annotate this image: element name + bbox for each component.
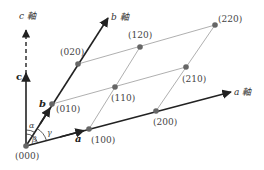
point-220 [212,22,218,28]
point-020 [75,61,81,67]
crystal-lattice-diagram: (000) (100) (200) (010) (110) (210) (020… [0,0,264,170]
point-110 [112,84,118,90]
b-axis-label: b 軸 [111,12,130,22]
gamma-arc [37,129,47,141]
b-vector-arrow [40,108,50,124]
label-220: (220) [218,14,242,24]
point-200 [153,108,159,114]
label-010: (010) [56,104,80,114]
point-120 [137,44,143,50]
b-vector-label: b [39,98,46,109]
a-axis-label: a 軸 [234,87,252,97]
alpha-arc [26,130,35,133]
label-000: (000) [15,151,39,161]
beta-label: β [31,135,37,144]
point-100 [86,126,92,132]
b-axis-line [26,18,108,146]
label-100: (100) [91,135,115,145]
label-120: (120) [128,30,152,40]
c-axis-label: c 軸 [19,11,37,21]
a-vector-label: a [75,133,81,144]
label-200: (200) [153,117,177,127]
c-vector-label: c [16,71,22,82]
label-110: (110) [111,93,135,103]
label-020: (020) [60,47,84,57]
point-210 [183,64,189,70]
point-010 [49,101,55,107]
gamma-label: γ [47,128,52,137]
label-210: (210) [182,74,206,84]
alpha-label: α [29,121,35,130]
point-000 [23,143,29,149]
